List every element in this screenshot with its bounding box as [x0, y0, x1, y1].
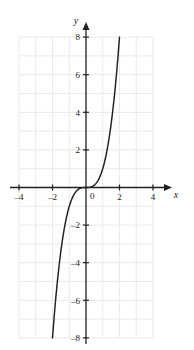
y-tick-label-4: 4 [76, 108, 81, 118]
y-axis-label: y [73, 15, 79, 26]
x-tick-label--2: –2 [47, 192, 57, 202]
origin-label: 0 [90, 191, 95, 201]
axes [10, 22, 172, 344]
y-tick-label-8: 8 [76, 32, 81, 42]
x-tick-label-4: 4 [151, 192, 156, 202]
cubic-function-plot: y x –4 –2 2 4 0 8 6 4 2 –2 –4 –6 –8 [0, 0, 194, 350]
x-tick-label-2: 2 [117, 192, 122, 202]
y-tick-label--6: –6 [70, 296, 81, 306]
y-tick-label-2: 2 [76, 145, 81, 155]
graph-canvas: y x –4 –2 2 4 0 8 6 4 2 –2 –4 –6 –8 [0, 0, 194, 350]
y-tick-label-6: 6 [76, 70, 81, 80]
y-axis-arrowhead [83, 22, 90, 30]
y-tick-label--4: –4 [70, 258, 81, 268]
x-tick-label--4: –4 [14, 192, 25, 202]
x-axis-label: x [173, 189, 179, 200]
x-axis-arrowhead [164, 184, 172, 191]
y-tick-label--8: –8 [70, 333, 81, 343]
y-tick-label--2: –2 [70, 220, 80, 230]
